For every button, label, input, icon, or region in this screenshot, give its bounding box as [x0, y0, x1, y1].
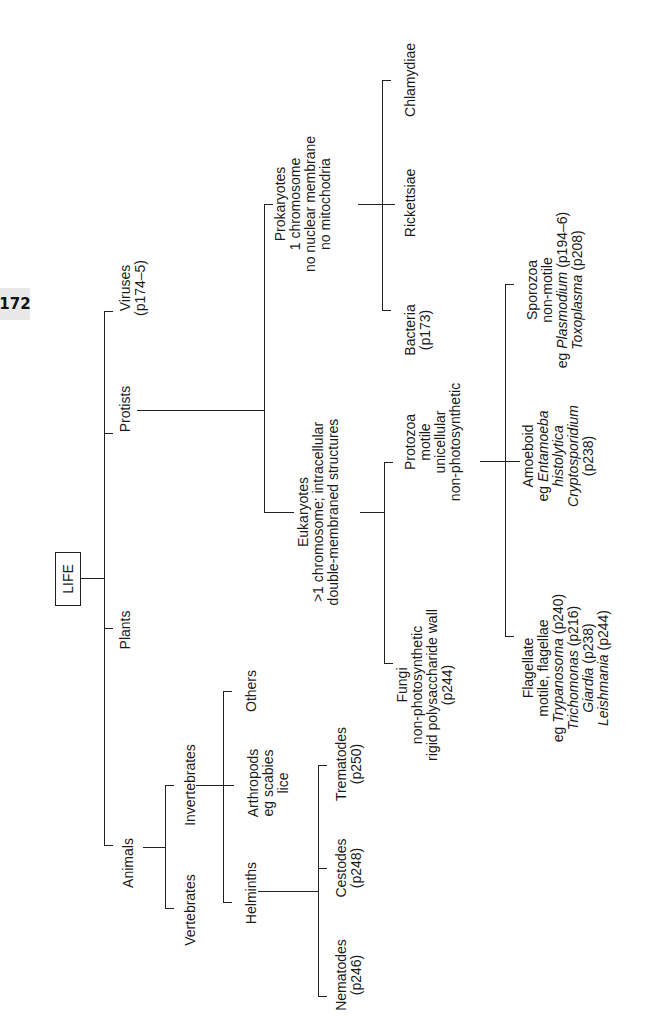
tick-others: [223, 691, 232, 692]
connector-root: [80, 578, 104, 579]
tick-trematodes: [318, 765, 327, 766]
tick-bacteria: [382, 310, 391, 311]
bracket-helminths: [318, 765, 319, 996]
page-number: 172: [0, 295, 31, 313]
connector-eukaryotes: [360, 512, 384, 513]
connector-invertebrates: [196, 785, 234, 786]
tick-sporozoa: [505, 284, 514, 285]
connector-animals: [143, 847, 165, 848]
tick-protists: [104, 433, 113, 434]
tick-fungi: [384, 663, 393, 664]
life-classification-diagram: 172 LIFE Viruses(p174–5) Protists Plants…: [0, 0, 667, 1016]
tick-eukaryotes: [264, 512, 294, 513]
tick-flagellate: [505, 636, 514, 637]
connector-protists: [137, 410, 264, 411]
bracket-eukaryotes: [384, 462, 385, 663]
bracket-invertebrates: [223, 691, 224, 902]
root-node-life: LIFE: [55, 552, 81, 606]
root-label: LIFE: [60, 564, 76, 594]
page-number-badge: 172: [0, 288, 30, 320]
tick-protozoa: [384, 462, 393, 463]
tick-animals: [104, 845, 113, 846]
bracket-prokaryotes: [382, 80, 383, 310]
spine-level1: [104, 311, 105, 846]
tick-vertebrates: [165, 908, 174, 909]
connector-protozoa: [480, 461, 520, 462]
bracket-protists: [264, 204, 265, 513]
bracket-animals: [165, 785, 166, 909]
tick-invertebrates: [165, 785, 174, 786]
tick-cestodes: [318, 868, 327, 869]
tick-plants: [104, 628, 113, 629]
bracket-protozoa: [505, 284, 506, 636]
tick-chlamydiae: [382, 80, 391, 81]
connector-helminths: [258, 891, 318, 892]
tick-nematodes: [318, 996, 327, 997]
connector-prokaryotes: [358, 204, 395, 205]
tick-helminths: [223, 902, 232, 903]
tick-viruses: [104, 311, 113, 312]
